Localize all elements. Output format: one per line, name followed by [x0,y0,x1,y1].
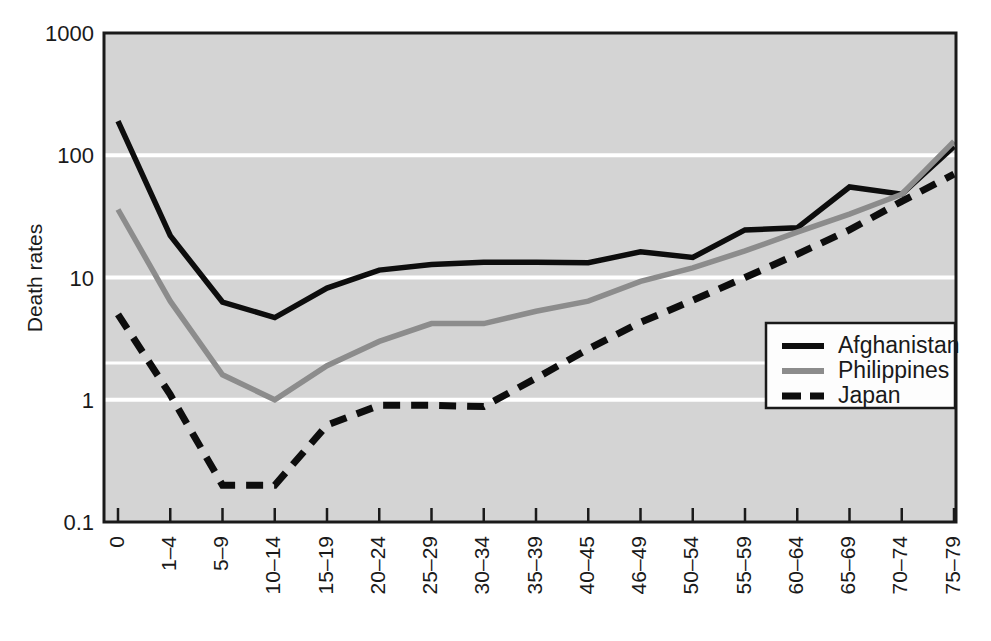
y-tick-label-10: 10 [70,266,94,291]
x-tick-label-5: 20–24 [366,536,389,595]
y-tick-label-0.1: 0.1 [63,510,94,535]
y-tick-label-100: 100 [57,143,94,168]
y-axis-title: Death rates [23,224,46,333]
x-tick-label-13: 60–64 [784,536,807,595]
legend-label-afghanistan: Afghanistan [838,332,959,358]
x-tick-label-1: 1–4 [157,536,180,571]
y-tick-label-1000: 1000 [45,21,94,46]
x-tick-label-7: 30–34 [470,536,493,595]
x-tick-label-16: 75–79 [941,536,964,594]
x-tick-label-14: 65–69 [836,536,859,594]
x-tick-label-0: 0 [105,536,128,548]
chart-figure: 01–45–910–1415–1920–2425–2930–3435–3940–… [0,0,991,641]
x-tick-label-6: 25–29 [418,536,441,594]
x-tick-label-15: 70–74 [888,536,911,595]
x-tick-label-2: 5–9 [209,536,232,571]
legend-label-philippines: Philippines [838,357,949,383]
x-tick-label-8: 35–39 [523,536,546,594]
x-tick-label-10: 46–49 [627,536,650,594]
death-rates-line-chart: 01–45–910–1415–1920–2425–2930–3435–3940–… [0,0,991,641]
legend-label-japan: Japan [838,382,901,408]
x-tick-label-3: 10–14 [261,536,284,595]
x-tick-label-12: 55–59 [732,536,755,594]
x-tick-label-4: 15–19 [314,536,337,594]
x-tick-label-9: 40–45 [575,536,598,594]
x-tick-label-11: 50–54 [679,536,702,595]
legend: AfghanistanPhilippinesJapan [766,323,959,408]
y-tick-label-1: 1 [82,388,94,413]
